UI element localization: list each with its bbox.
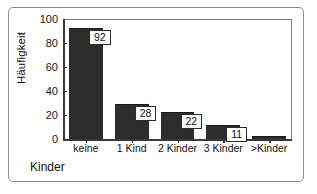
y-tick-label: 0 — [28, 134, 58, 144]
x-axis-tick-labels: keine1 Kind2 Kinder3 Kinder>Kinder — [63, 142, 292, 158]
x-axis-title: Kinder — [30, 160, 150, 174]
bar-value-label: 92 — [89, 30, 111, 45]
bar-value-label: 22 — [181, 114, 203, 129]
y-tick-label: 20 — [28, 110, 58, 120]
y-axis-title: Häufigkeit — [15, 15, 27, 101]
bar-value-label: 11 — [226, 127, 247, 142]
bar — [206, 19, 240, 139]
y-tick-label: 60 — [28, 62, 58, 72]
chart-figure: 020406080100 Häufigkeit 92282211 keine1 … — [0, 0, 317, 194]
bar-series: 92282211 — [63, 19, 292, 139]
y-tick-label: 40 — [28, 86, 58, 96]
y-tick-label: 80 — [28, 38, 58, 48]
bar-value-label: 28 — [135, 106, 157, 121]
x-tick-label: >Kinder — [239, 142, 299, 154]
bar — [252, 19, 286, 139]
y-tick-label: 100 — [28, 14, 58, 24]
